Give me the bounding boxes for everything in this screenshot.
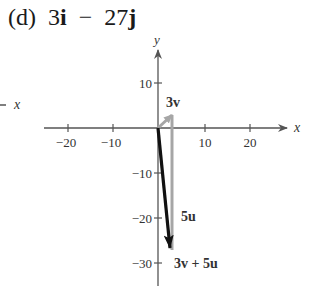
- y-tick-label: −20: [132, 211, 152, 226]
- stray-x-label: x: [13, 97, 21, 112]
- vector-3v-label: 3v: [166, 95, 180, 110]
- vector-diagram: x x y −20 −10 10 20 10 −10 −20 −30 3v 5u…: [0, 0, 318, 306]
- x-tick-label: 10: [199, 135, 212, 150]
- vector-resultant-label: 3v + 5u: [174, 256, 218, 271]
- vector-5u-label: 5u: [181, 209, 196, 224]
- vector-3v: [158, 115, 172, 128]
- x-tick-label: −10: [101, 135, 121, 150]
- y-tick-label: −10: [132, 166, 152, 181]
- y-axis-label: y: [152, 32, 160, 47]
- y-tick-label: −30: [132, 256, 152, 271]
- x-axis-label: x: [293, 120, 301, 135]
- x-tick-label: 20: [244, 135, 257, 150]
- y-tick-label: 10: [139, 76, 152, 91]
- vector-resultant: [158, 128, 170, 248]
- x-tick-label: −20: [56, 135, 76, 150]
